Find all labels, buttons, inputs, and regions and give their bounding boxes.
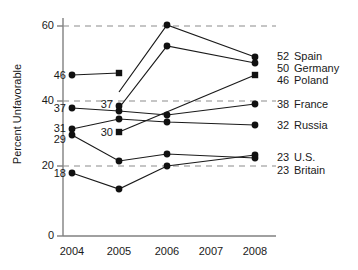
legend-value-poland: 46 (277, 74, 294, 87)
legend-label-france: France (294, 98, 328, 111)
series-line-us (72, 135, 255, 161)
point-label-germany-2005: 37 (91, 98, 113, 110)
legend-item-poland: 46Poland (277, 74, 328, 87)
data-point-us-2005 (116, 158, 123, 165)
data-point-poland-2008 (252, 72, 258, 78)
legend-value-france: 38 (277, 98, 294, 111)
legend-item-france: 38France (277, 98, 328, 111)
data-point-russia-2005 (116, 116, 123, 123)
data-point-britain-2004 (69, 170, 76, 177)
y-tick-label-60: 60 (14, 19, 54, 31)
legend-label-britain: Britain (294, 164, 325, 177)
legend-label-us: U.S. (294, 151, 315, 164)
series-line-poland-lower (119, 75, 255, 132)
series-line-poland-upper (72, 73, 119, 75)
x-tick-label-2007: 2007 (191, 245, 231, 257)
data-point-poland-2004 (69, 72, 76, 79)
series-line-germany (119, 46, 255, 108)
data-point-britain-2008 (252, 152, 259, 159)
data-point-poland-2005-lower (116, 129, 122, 135)
data-point-russia-2006 (164, 119, 171, 126)
x-tick-label-2004: 2004 (52, 245, 92, 257)
point-label-us-2004: 29 (44, 133, 66, 145)
legend-value-russia: 32 (277, 119, 294, 132)
data-point-france-2006 (164, 112, 171, 119)
data-point-spain-2006 (164, 22, 171, 29)
legend-item-russia: 32Russia (277, 119, 328, 132)
series-line-britain (72, 155, 255, 189)
data-point-britain-2005 (116, 186, 123, 193)
x-tick-label-2006: 2006 (147, 245, 187, 257)
data-point-spain-2008 (252, 54, 259, 61)
data-point-russia-2008 (252, 122, 259, 129)
legend-value-britain: 23 (277, 164, 294, 177)
point-label-poland-2005: 30 (91, 126, 113, 138)
data-point-poland-2005-upper (116, 70, 122, 76)
point-label-poland-2004: 46 (44, 69, 66, 81)
legend-item-britain: 23Britain (277, 164, 325, 177)
point-label-france-2004: 37 (44, 102, 66, 114)
legend-label-russia: Russia (294, 119, 328, 132)
data-point-russia-2004 (69, 126, 76, 133)
data-point-germany-2006 (164, 43, 171, 50)
y-tick-label-0: 0 (14, 229, 54, 241)
x-tick-label-2008: 2008 (235, 245, 275, 257)
data-point-france-2008 (252, 101, 259, 108)
data-point-germany-2008 (252, 60, 259, 67)
legend-value-us: 23 (277, 151, 294, 164)
data-point-germany-2005 (116, 103, 123, 110)
data-point-us-2004 (69, 132, 76, 139)
legend-item-us: 23U.S. (277, 151, 315, 164)
line-chart: Percent Unfavorable 60 40 20 0 2004 2005… (0, 0, 358, 270)
data-point-us-2006 (164, 151, 171, 158)
x-tick-label-2005: 2005 (99, 245, 139, 257)
point-label-britain-2004: 18 (44, 167, 66, 179)
data-point-britain-2006 (164, 163, 171, 170)
data-point-france-2004 (69, 105, 76, 112)
legend-label-poland: Poland (294, 74, 328, 87)
